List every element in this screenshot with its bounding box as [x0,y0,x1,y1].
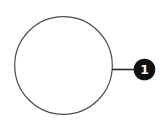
callout-badge[interactable]: 1 [134,59,156,81]
callout-number-label: 1 [140,62,149,77]
main-circle-outline [15,17,113,115]
callout-diagram: 1 [0,0,162,126]
diagram-canvas: 1 [0,0,162,126]
